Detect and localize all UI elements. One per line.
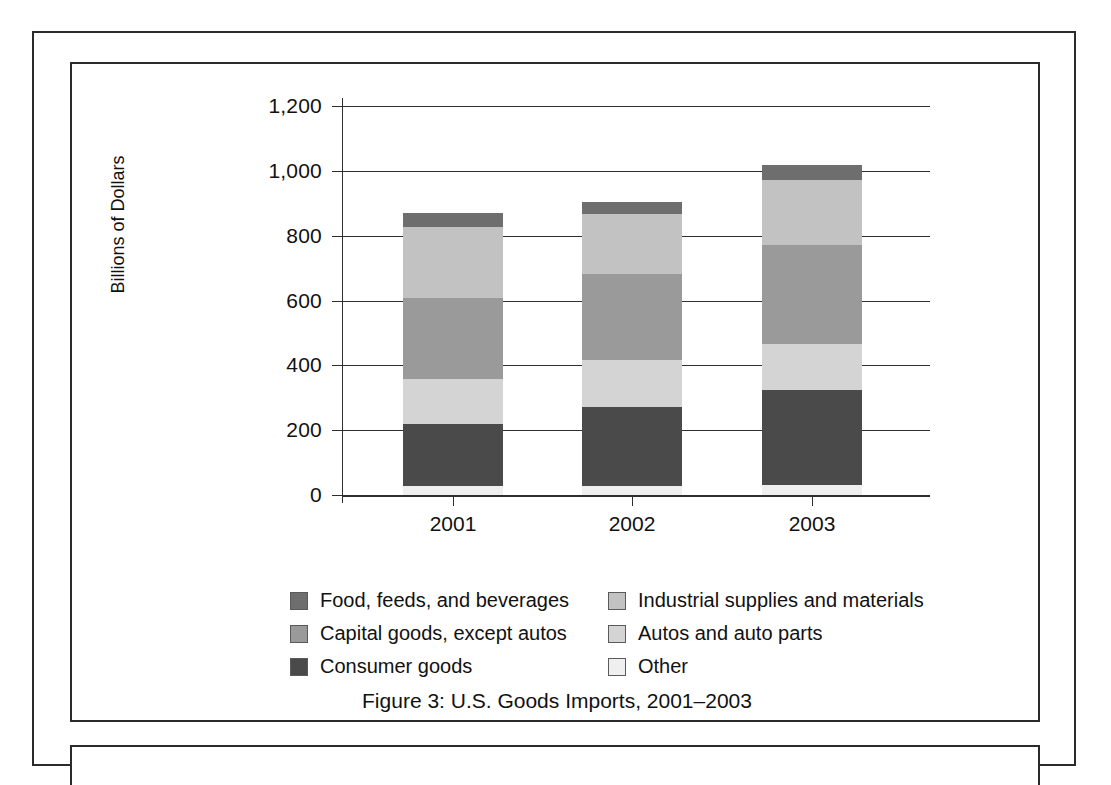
legend-item-industrial-supplies-and-materials: Industrial supplies and materials bbox=[608, 589, 990, 612]
bar-segment bbox=[762, 485, 862, 495]
bar-segment bbox=[403, 298, 503, 379]
legend-swatch-capital-goods-except-autos bbox=[290, 625, 308, 643]
legend-swatch-other bbox=[608, 658, 626, 676]
bar-segment bbox=[403, 424, 503, 486]
legend-swatch-food-feeds-and-beverages bbox=[290, 592, 308, 610]
figure-panel: Billions of Dollars 02004006008001,0001,… bbox=[70, 62, 1040, 722]
plot-area: 200120022003 bbox=[342, 106, 930, 495]
bar-segment bbox=[762, 344, 862, 390]
y-axis-title: Billions of Dollars bbox=[108, 95, 129, 355]
y-axis-label-200: 200 bbox=[286, 418, 322, 442]
bar-segment bbox=[582, 360, 682, 407]
x-axis-label-2002: 2002 bbox=[572, 512, 692, 536]
y-tick-400 bbox=[332, 365, 342, 366]
bar-2003 bbox=[762, 165, 862, 495]
x-tick-2002 bbox=[632, 495, 633, 506]
bar-segment bbox=[762, 390, 862, 485]
y-axis-label-0: 0 bbox=[310, 483, 322, 507]
legend-label-other: Other bbox=[638, 655, 688, 678]
gridline-1200 bbox=[342, 106, 930, 107]
gridline-0 bbox=[342, 495, 930, 496]
legend-label-industrial-supplies-and-materials: Industrial supplies and materials bbox=[638, 589, 924, 612]
y-tick-1200 bbox=[332, 106, 342, 107]
y-tick-1000 bbox=[332, 171, 342, 172]
bar-segment bbox=[403, 486, 503, 495]
legend-item-autos-and-auto-parts: Autos and auto parts bbox=[608, 622, 990, 645]
bar-segment bbox=[582, 407, 682, 486]
bar-segment bbox=[762, 180, 862, 245]
next-figure-panel-top-edge bbox=[70, 745, 1040, 785]
x-axis-label-2001: 2001 bbox=[393, 512, 513, 536]
legend-item-consumer-goods: Consumer goods bbox=[290, 655, 608, 678]
x-axis-label-2003: 2003 bbox=[752, 512, 872, 536]
y-tick-200 bbox=[332, 430, 342, 431]
x-tick-2003 bbox=[812, 495, 813, 506]
bar-segment bbox=[762, 165, 862, 180]
legend-swatch-autos-and-auto-parts bbox=[608, 625, 626, 643]
bar-segment bbox=[582, 274, 682, 360]
y-axis-label-600: 600 bbox=[286, 289, 322, 313]
y-axis-label-400: 400 bbox=[286, 353, 322, 377]
bar-2002 bbox=[582, 202, 682, 495]
y-axis-tick-labels: 02004006008001,0001,200 bbox=[222, 106, 322, 495]
legend-label-food-feeds-and-beverages: Food, feeds, and beverages bbox=[320, 589, 569, 612]
legend-label-autos-and-auto-parts: Autos and auto parts bbox=[638, 622, 823, 645]
legend-swatch-industrial-supplies-and-materials bbox=[608, 592, 626, 610]
figure-caption: Figure 3: U.S. Goods Imports, 2001–2003 bbox=[72, 689, 1042, 713]
legend-item-capital-goods-except-autos: Capital goods, except autos bbox=[290, 622, 608, 645]
bar-segment bbox=[403, 379, 503, 424]
y-tick-600 bbox=[332, 301, 342, 302]
bar-segment bbox=[582, 486, 682, 495]
y-axis-label-800: 800 bbox=[286, 224, 322, 248]
bar-2001 bbox=[403, 213, 503, 495]
bar-segment bbox=[582, 202, 682, 214]
legend-item-other: Other bbox=[608, 655, 990, 678]
y-axis-label-1000: 1,000 bbox=[268, 159, 322, 183]
legend-item-food-feeds-and-beverages: Food, feeds, and beverages bbox=[290, 589, 608, 612]
bar-segment bbox=[762, 245, 862, 344]
bar-segment bbox=[403, 227, 503, 298]
chart-legend: Food, feeds, and beveragesIndustrial sup… bbox=[290, 584, 990, 683]
x-tick-2001 bbox=[453, 495, 454, 506]
bar-segment bbox=[582, 214, 682, 274]
legend-label-consumer-goods: Consumer goods bbox=[320, 655, 472, 678]
y-axis-label-1200: 1,200 bbox=[268, 94, 322, 118]
legend-label-capital-goods-except-autos: Capital goods, except autos bbox=[320, 622, 567, 645]
y-tick-800 bbox=[332, 236, 342, 237]
bar-segment bbox=[403, 213, 503, 227]
legend-swatch-consumer-goods bbox=[290, 658, 308, 676]
y-tick-0 bbox=[332, 495, 342, 496]
